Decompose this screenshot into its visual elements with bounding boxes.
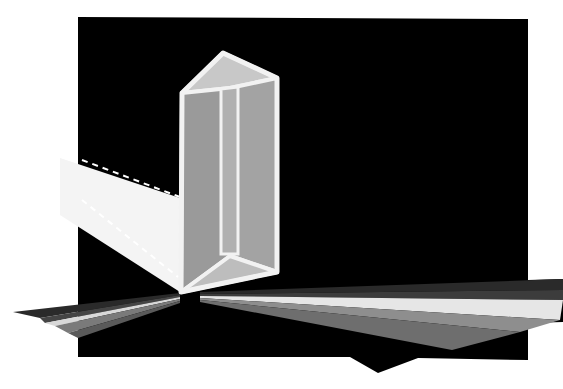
prism bbox=[181, 53, 277, 292]
prism-illustration bbox=[0, 0, 563, 389]
prism-inner-edge bbox=[221, 87, 238, 254]
